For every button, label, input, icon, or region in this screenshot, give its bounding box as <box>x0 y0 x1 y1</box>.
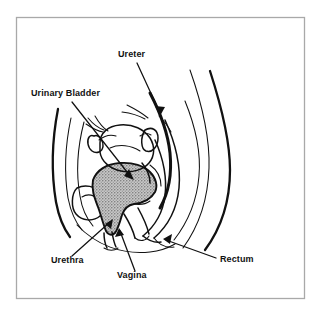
vagina-posterior-wall <box>138 208 149 234</box>
broad-ligament-strand <box>88 118 104 130</box>
vagina-anterior-wall <box>124 214 135 238</box>
abdominal-wall-outer <box>53 109 70 237</box>
label-urinary-bladder: Urinary Bladder <box>31 88 100 98</box>
anatomy-figure: Ureter Urinary Bladder Urethra Vagina Re… <box>0 0 323 314</box>
urethral-meatus <box>104 248 118 250</box>
ureter-leader-line <box>137 63 160 113</box>
rectus-fascia-line <box>78 122 93 226</box>
buttock-inner-contour <box>183 70 209 248</box>
rectum-arrowhead <box>163 234 172 244</box>
abdominal-wall-inner <box>66 118 82 230</box>
anatomy-diagram-svg: Ureter Urinary Bladder Urethra Vagina Re… <box>0 0 323 314</box>
fimbria-right <box>140 134 151 136</box>
urinary-bladder-organ <box>92 163 156 235</box>
urethra-canal-wall <box>104 233 107 248</box>
urinary-bladder-leader-line <box>72 102 131 177</box>
gluteal-fold-line <box>174 101 199 240</box>
ureter-arrowhead <box>155 106 165 116</box>
rectum-leader-line <box>166 240 216 258</box>
label-rectum: Rectum <box>220 254 254 264</box>
label-vagina: Vagina <box>117 270 148 280</box>
label-urethra: Urethra <box>51 255 85 265</box>
uterine-cavity-line <box>110 146 140 151</box>
label-ureter: Ureter <box>118 49 146 59</box>
vaginal-introitus <box>135 236 149 240</box>
